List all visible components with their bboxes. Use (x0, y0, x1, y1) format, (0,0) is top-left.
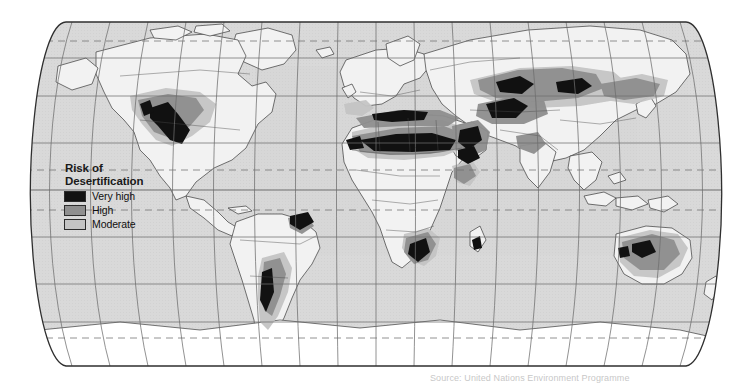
map-figure: Risk of Desertification Very high High M… (0, 0, 752, 384)
legend-label-very-high: Very high (92, 191, 135, 202)
legend-swatch-moderate (64, 219, 86, 230)
legend-label-moderate: Moderate (92, 219, 136, 230)
legend-swatch-very-high (64, 191, 86, 202)
legend-title: Risk of Desertification (65, 163, 182, 187)
legend-item-very-high[interactable]: Very high (64, 190, 182, 203)
legend-item-moderate[interactable]: Moderate (64, 218, 182, 231)
legend-title-line1: Risk of (65, 162, 103, 174)
legend-item-high[interactable]: High (64, 204, 182, 217)
risk-very-high-australia-w (618, 246, 630, 258)
legend-swatch-high (64, 205, 86, 216)
figure-caption-clipped: Source: United Nations Environment Progr… (430, 374, 752, 384)
legend-title-line2: Desertification (65, 176, 182, 188)
map-legend: Risk of Desertification Very high High M… (64, 163, 182, 232)
figure-caption-text: Source: United Nations Environment Progr… (430, 374, 752, 383)
legend-label-high: High (92, 205, 113, 216)
